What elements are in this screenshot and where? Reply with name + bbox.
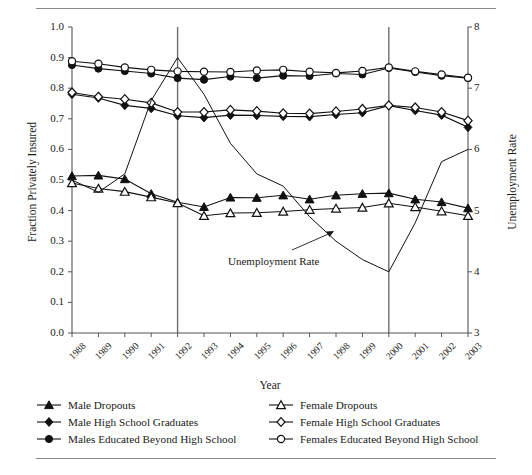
series-marker-females-educated-beyond-high-school [227,68,234,75]
legend-marker-filled-diamond [36,415,62,429]
series-marker-female-high-school-graduates [121,95,129,104]
legend-swatch [36,415,62,429]
legend-label: Male High School Graduates [68,416,198,428]
legend-item-male-0[interactable]: Male Dropouts [36,396,236,413]
annotation-arrow-head [326,231,334,237]
series-marker-females-educated-beyond-high-school [253,67,260,74]
legend-swatch [268,415,294,429]
figure: Fraction Privately Insured Unemployment … [0,0,532,475]
legend-column-female: Female DropoutsFemale High School Gradua… [268,396,478,447]
series-line-female-dropouts [72,183,468,216]
legend-item-male-1[interactable]: Male High School Graduates [36,413,236,430]
legend-swatch [268,432,294,446]
series-line-females-educated-beyond-high-school [72,61,468,78]
series-marker-females-educated-beyond-high-school [412,68,419,75]
series-marker-females-educated-beyond-high-school [148,66,155,73]
series-marker-males-educated-beyond-high-school [253,75,260,82]
legend-swatch [36,432,62,446]
series-marker-females-educated-beyond-high-school [438,71,445,78]
y-tick-label-left: 0.9 [30,51,64,63]
y-tick-label-right: 6 [474,142,508,154]
series-line-unemployment-rate [72,58,468,272]
series-marker-females-educated-beyond-high-school [174,68,181,75]
unemployment-rate-annotation: Unemployment Rate [228,255,319,267]
legend-marker-open-diamond [268,415,294,429]
y-tick-label-right: 3 [474,326,508,338]
y-tick-label-left: 0.1 [30,295,64,307]
series-marker-females-educated-beyond-high-school [464,74,471,81]
series-marker-female-high-school-graduates [200,108,208,117]
series-marker-females-educated-beyond-high-school [68,58,75,65]
legend-label: Male Dropouts [68,399,135,411]
series-marker-females-educated-beyond-high-school [280,66,287,73]
legend-label: Females Educated Beyond High School [300,433,478,445]
legend-item-female-1[interactable]: Female High School Graduates [268,413,478,430]
series-marker-female-high-school-graduates [226,105,234,114]
y-tick-label-left: 0.4 [30,204,64,216]
y-tick-label-left: 0.8 [30,81,64,93]
y-tick-label-right: 4 [474,265,508,277]
y-tick-label-left: 0.2 [30,265,64,277]
legend-label: Female Dropouts [300,399,377,411]
series-marker-female-high-school-graduates [464,116,472,125]
annotation-arrow-line [292,232,333,250]
series-marker-female-dropouts [384,199,393,207]
y-axis-right-title: Unemployment Rate [506,87,518,277]
series-marker-females-educated-beyond-high-school [385,64,392,71]
y-tick-label-left: 1.0 [30,20,64,32]
y-tick-label-right: 8 [474,20,508,32]
y-tick-label-right: 7 [474,81,508,93]
series-marker-male-dropouts [279,191,288,199]
y-tick-label-left: 0.5 [30,173,64,185]
legend-swatch [268,398,294,412]
legend-swatch [36,398,62,412]
legend-marker-filled-circle [36,432,62,446]
series-marker-males-educated-beyond-high-school [174,75,181,82]
legend-marker-open-triangle [268,398,294,412]
series-marker-females-educated-beyond-high-school [306,68,313,75]
y-tick-label-left: 0.6 [30,142,64,154]
y-tick-label-left: 0.3 [30,234,64,246]
series-line-male-high-school-graduates [72,94,468,127]
legend-label: Males Educated Beyond High School [68,433,236,445]
legend-marker-filled-triangle [36,398,62,412]
series-marker-female-high-school-graduates [94,92,102,101]
series-marker-females-educated-beyond-high-school [332,69,339,76]
y-tick-label-left: 0.7 [30,112,64,124]
series-line-males-educated-beyond-high-school [72,65,468,80]
legend-item-male-2[interactable]: Males Educated Beyond High School [36,430,236,447]
legend-label: Female High School Graduates [300,416,440,428]
legend-column-male: Male DropoutsMale High School GraduatesM… [36,396,236,447]
legend-item-female-2[interactable]: Females Educated Beyond High School [268,430,478,447]
series-marker-females-educated-beyond-high-school [121,64,128,71]
series-marker-females-educated-beyond-high-school [359,67,366,74]
y-tick-label-left: 0.0 [30,326,64,338]
x-axis-title: Year [190,379,350,391]
series-marker-males-educated-beyond-high-school [200,76,207,83]
y-tick-label-right: 5 [474,204,508,216]
series-marker-female-high-school-graduates [385,101,393,110]
series-marker-females-educated-beyond-high-school [200,68,207,75]
legend-marker-open-circle [268,432,294,446]
series-marker-females-educated-beyond-high-school [95,60,102,67]
legend-item-female-0[interactable]: Female Dropouts [268,396,478,413]
